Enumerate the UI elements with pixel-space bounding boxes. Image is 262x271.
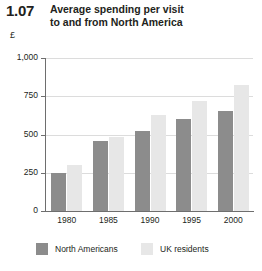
legend-swatch-icon-uk-residents (141, 243, 153, 255)
x-axis-tick-label: 1990 (130, 215, 170, 225)
bar-group (218, 58, 249, 211)
legend-label-north-americans: North Americans (55, 244, 118, 254)
bar-group (51, 58, 82, 211)
legend-item-uk-residents: UK residents (141, 241, 209, 257)
y-axis-unit-label: £ (10, 30, 15, 41)
bar-groups (45, 58, 253, 211)
bar-north-americans-1980 (51, 173, 66, 211)
figure-header: 1.07 Average spending per visit to and f… (0, 0, 262, 44)
y-axis-tick-label: 1,000 (0, 53, 38, 62)
x-axis-line (45, 211, 254, 212)
x-axis-tick-label: 1980 (47, 215, 87, 225)
bar-north-americans-1990 (135, 131, 150, 211)
legend-swatch-icon-north-americans (36, 243, 48, 255)
bar-uk-residents-1990 (151, 115, 166, 211)
bar-uk-residents-1995 (192, 101, 207, 211)
x-axis-tick-label: 1995 (172, 215, 212, 225)
bar-north-americans-1985 (93, 141, 108, 211)
bar-uk-residents-2000 (234, 85, 249, 211)
bar-north-americans-1995 (176, 119, 191, 211)
bar-uk-residents-1980 (67, 165, 82, 211)
figure-title-line-2: to and from North America (50, 16, 258, 29)
bar-group (176, 58, 207, 211)
bar-north-americans-2000 (218, 111, 233, 211)
x-axis-tick-label: 1985 (88, 215, 128, 225)
legend-label-uk-residents: UK residents (160, 244, 209, 254)
y-axis-tick-label: 750 (0, 91, 38, 100)
bar-group (135, 58, 166, 211)
bar-group (93, 58, 124, 211)
figure-container: 1.07 Average spending per visit to and f… (0, 0, 262, 271)
bar-uk-residents-1985 (109, 137, 124, 211)
page-title: Average spending per visit to and from N… (50, 3, 258, 29)
figure-number: 1.07 (6, 2, 34, 19)
y-axis-tick-label: 250 (0, 168, 38, 177)
y-axis-tick (41, 211, 45, 212)
legend-item-north-americans: North Americans (36, 241, 118, 257)
y-axis-tick-label: 500 (0, 130, 38, 139)
y-axis-tick-label: 0 (0, 206, 38, 215)
figure-title-line-1: Average spending per visit (50, 3, 258, 16)
chart-legend: North Americans UK residents (0, 241, 262, 259)
x-axis-tick-label: 2000 (213, 215, 253, 225)
